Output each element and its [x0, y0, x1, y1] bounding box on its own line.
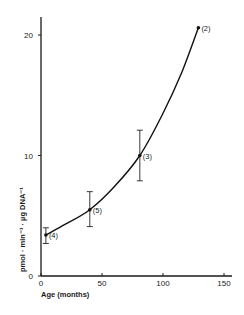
- data-point-label: (5): [93, 206, 103, 215]
- data-point: [88, 208, 92, 212]
- y-tick-label: 20: [24, 31, 33, 40]
- data-points: (4)(5)(3)(2): [43, 24, 211, 244]
- x-tick-label: 150: [217, 279, 231, 288]
- data-point-label: (3): [143, 152, 153, 161]
- data-point-label: (4): [49, 231, 59, 240]
- data-point: [44, 233, 48, 237]
- fit-curve: [46, 28, 199, 235]
- y-axis-title: pmol · min⁻¹ · µg DNA⁻¹: [18, 187, 27, 272]
- x-tick-label: 0: [39, 279, 44, 288]
- chart: 050100150 01020 (4)(5)(3)(2) Age (months…: [0, 0, 244, 315]
- data-point: [138, 154, 142, 158]
- data-point-label: (2): [201, 24, 211, 33]
- x-tick-label: 50: [98, 279, 107, 288]
- y-tick-label: 10: [24, 152, 33, 161]
- y-tick-label: 0: [29, 272, 34, 281]
- axes: [41, 17, 232, 276]
- x-ticks: 050100150: [39, 273, 231, 288]
- data-point: [197, 26, 201, 30]
- x-axis-title: Age (months): [41, 290, 90, 299]
- x-tick-label: 100: [156, 279, 170, 288]
